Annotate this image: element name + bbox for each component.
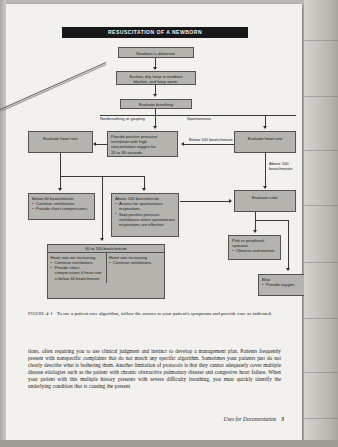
node-evaluate-color-label: Evaluate color	[238, 193, 292, 202]
pink-list: Observe and monitor.	[232, 248, 277, 253]
arrowhead-down-60to100	[100, 238, 104, 241]
flowchart-title: RESUSCITATION OF A NEWBORN	[62, 27, 248, 38]
node-evaluate-color: Evaluate color	[234, 190, 296, 212]
figure-caption-text: To use a patient care algorithm, follow …	[57, 311, 272, 316]
connector-v-60to100	[102, 176, 103, 239]
node-60-to-100-table: 60 to 100 beats/minute Heart rate not in…	[47, 244, 165, 299]
node-blue: Blue Provide oxygen.	[258, 274, 306, 296]
page-bottom-shadow	[0, 440, 338, 447]
running-title: Uses for Documentation	[224, 416, 277, 422]
pink-header: Pink or peripheral cyanosis	[232, 238, 277, 248]
edge-label-spontaneous: Spontaneous	[187, 116, 211, 121]
arrowhead-down-above100mid	[142, 188, 146, 191]
pink-item-0: Observe and monitor.	[232, 248, 277, 253]
ppv-line4: 15 to 30 seconds	[111, 150, 174, 155]
arrowhead-down-1	[153, 67, 157, 70]
blue-list: Provide oxygen.	[262, 282, 302, 287]
edge-label-nonbreathing: Nonbreathing or gasping	[100, 116, 145, 121]
col-right-list: Continue ventilations.	[109, 260, 162, 265]
above100-list: Assess for spontaneous respirations. Sto…	[115, 201, 175, 227]
arrowhead-right-color	[229, 199, 232, 203]
connector-h-ppv-to-left	[96, 144, 107, 145]
table-header-60to100: 60 to 100 beats/minute	[48, 245, 164, 253]
arrowhead-down-above100	[263, 186, 267, 189]
node-evaluate-breathing-label: Evaluate breathing	[124, 102, 188, 108]
node-above-100: Above 100 beats/minute Assess for sponta…	[111, 193, 179, 237]
figure-algorithm-flowchart: RESUSCITATION OF A NEWBORN Newborn is de…	[6, 4, 302, 304]
node-evaluate-heart-rate-right: Evaluate heart rate	[234, 131, 296, 153]
node-suction-dry-line2: blanket, and keep warm.	[120, 79, 192, 84]
table-body-60to100: Heart rate not increasing Continue venti…	[48, 253, 164, 283]
arrowhead-down-blue	[286, 268, 290, 271]
figure-caption-label: Figure 4-1	[28, 311, 53, 316]
edge-label-below-100: Below 100 beats/minute	[189, 137, 233, 142]
table-col-increasing: Heart rate increasing Continue ventilati…	[107, 253, 165, 283]
page-number: 3	[281, 416, 284, 422]
connector-v-lefthr	[60, 153, 61, 176]
arrowhead-down-2	[153, 94, 157, 97]
connector-v-blue	[288, 220, 289, 269]
connector-v-above100	[265, 153, 266, 187]
node-pink-cyanosis: Pink or peripheral cyanosis Observe and …	[228, 235, 281, 260]
book-gutter	[304, 0, 338, 447]
connector-h-above100-to-color	[180, 201, 230, 202]
arrowhead-down-spontaneous	[263, 126, 267, 129]
scan-artifact-line-2	[0, 64, 106, 113]
figure-caption: Figure 4-1 To use a patient care algorit…	[28, 311, 284, 318]
body-paragraph: tions, often requiring you to use clinic…	[28, 348, 281, 391]
above100-item-1: Stop positive pressure ventilations when…	[115, 212, 175, 228]
page-footer: Uses for Documentation3	[28, 416, 284, 422]
connector-v-color	[255, 212, 256, 220]
below60-item-1: Provide chest compressions.	[32, 206, 91, 211]
node-evaluate-heart-rate-left-label: Evaluate heart rate	[32, 134, 89, 143]
node-evaluate-heart-rate-left: Evaluate heart rate	[28, 131, 93, 153]
node-evaluate-breathing: Evaluate breathing	[120, 99, 192, 109]
blue-item-0: Provide oxygen.	[262, 282, 302, 287]
col-left-item-1: Provide chest compressions if heart rate…	[51, 265, 104, 281]
connector-h-color-split	[255, 220, 288, 221]
arrowhead-down-below60	[58, 188, 62, 191]
col-right-item-0: Continue ventilations.	[109, 260, 162, 265]
below60-list: Continue ventilations. Provide chest com…	[32, 201, 91, 211]
node-suction-dry: Suction, dry, keep in newborn blanket, a…	[116, 71, 196, 85]
node-evaluate-heart-rate-right-label: Evaluate heart rate	[238, 134, 292, 143]
table-col-not-increasing: Heart rate not increasing Continue venti…	[48, 253, 107, 283]
book-page: RESUSCITATION OF A NEWBORN Newborn is de…	[6, 4, 302, 442]
arrowhead-left-below100	[181, 142, 184, 146]
arrowhead-left-ppv	[93, 142, 96, 146]
arrowhead-down-pink	[253, 230, 257, 233]
node-below-60: Below 60 beats/minute Continue ventilati…	[28, 193, 95, 220]
edge-label-above100-line2: beats/minute	[269, 166, 292, 171]
node-positive-pressure-ventilation: Provide positive pressure ventilation wi…	[107, 131, 178, 157]
col-left-list: Continue ventilations. Provide chest com…	[51, 260, 104, 281]
node-newborn-delivered-label: Newborn is delivered.	[122, 50, 190, 57]
node-newborn-delivered: Newborn is delivered.	[118, 47, 194, 58]
above100-item-0: Assess for spontaneous respirations.	[115, 201, 175, 211]
arrowhead-down-nonbreathing	[153, 126, 157, 129]
connector-h-below100	[184, 144, 234, 145]
